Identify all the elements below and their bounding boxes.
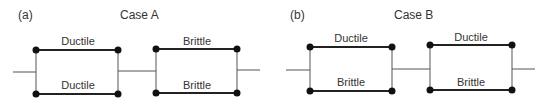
node-icon [115,47,122,54]
panel-a-tag: (a) [18,8,33,22]
panel-b-tag: (b) [290,8,305,22]
element-label: Brittle [183,35,211,47]
panel-a: (a) Case A Ductile Ductile [13,8,260,98]
element-label: Brittle [457,76,485,88]
node-icon [389,44,396,51]
element-label: Ductile [61,79,95,91]
node-icon [509,42,516,49]
node-icon [307,88,314,95]
block-a2: Brittle Brittle [153,35,241,97]
element-label: Brittle [183,79,211,91]
node-icon [33,47,40,54]
element-label: Brittle [337,76,365,88]
node-icon [33,91,40,98]
series-parallel-diagram: (a) Case A Ductile Ductile [0,0,545,106]
node-icon [153,46,160,53]
element-label: Ductile [61,35,95,47]
block-b2: Ductile Brittle [427,31,516,94]
node-icon [115,91,122,98]
node-icon [307,44,314,51]
node-icon [389,88,396,95]
node-icon [427,42,434,49]
panel-a-title: Case A [120,8,159,22]
node-icon [509,87,516,94]
element-label: Ductile [454,31,488,43]
block-a1: Ductile Ductile [33,35,122,98]
panel-b: (b) Case B Ductile Brittle Ductile [286,8,535,95]
node-icon [234,90,241,97]
element-label: Ductile [334,32,368,44]
block-b1: Ductile Brittle [307,32,396,95]
node-icon [234,46,241,53]
panel-b-title: Case B [394,8,433,22]
node-icon [153,90,160,97]
node-icon [427,87,434,94]
